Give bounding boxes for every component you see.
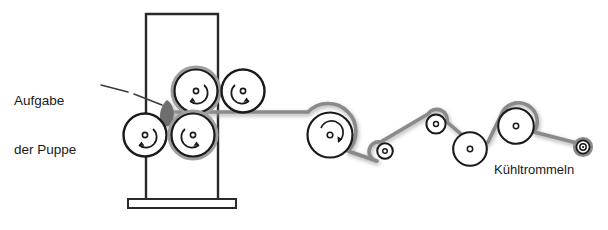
cooling-roller-6 [574, 138, 591, 155]
calender-roller-lower-left [124, 114, 167, 157]
feed-label-line2: der Puppe [14, 142, 76, 158]
calender-roller-upper-right [222, 70, 265, 113]
cooling-drum-4 [453, 132, 487, 166]
cooling-drum-1 [308, 113, 353, 158]
roller-hub [142, 132, 147, 137]
feed-label: Aufgabe der Puppe [14, 60, 76, 192]
leader-dash-2 [134, 94, 162, 105]
machine-diagram [0, 0, 608, 230]
feed-label-line1: Aufgabe [14, 93, 76, 109]
drum-hub [467, 146, 472, 151]
frame-base-plate [128, 199, 236, 208]
leader-dash-1 [101, 85, 128, 92]
calender-roller-lower-right [170, 112, 217, 159]
diagram-canvas: Aufgabe der Puppe Kühltrommeln [0, 0, 608, 230]
roller-hub [582, 146, 584, 148]
drum-hub [327, 132, 333, 138]
cooling-drums-label: Kühltrommeln [494, 162, 574, 178]
drum-hub [513, 123, 518, 128]
roller-hub [193, 88, 198, 93]
calender-roller-upper-left [173, 68, 220, 115]
roller-hub [190, 132, 195, 137]
cooling-roller-3 [426, 114, 445, 133]
cooling-roller-2 [377, 143, 393, 159]
roller-hub [434, 122, 439, 127]
feed-label-leader [101, 85, 162, 105]
roller-hub [383, 149, 388, 154]
cooling-drum-5 [498, 108, 534, 144]
roller-hub [240, 88, 245, 93]
